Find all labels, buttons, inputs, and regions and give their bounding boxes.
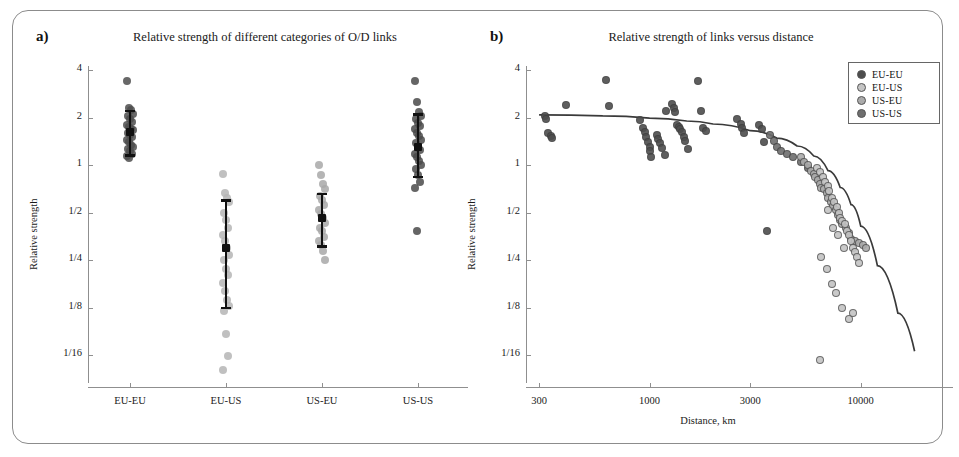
figure-container: a) Relative strength of different catego… bbox=[0, 0, 959, 457]
x-tick-label: EU-US bbox=[181, 395, 271, 406]
error-bar-cap-top bbox=[413, 113, 423, 116]
panel-a-y-axis bbox=[88, 66, 89, 383]
data-point bbox=[862, 244, 870, 252]
x-tick bbox=[322, 383, 323, 387]
data-point bbox=[840, 244, 848, 252]
x-tick bbox=[226, 383, 227, 387]
y-tick bbox=[89, 70, 93, 71]
error-bar-line bbox=[225, 200, 227, 307]
y-tick-label: 1/16 bbox=[40, 347, 82, 358]
panel-b: b) Relative strength of links versus dis… bbox=[478, 0, 959, 457]
legend-item-us-us: US-US bbox=[857, 108, 902, 119]
legend-marker-eu-eu bbox=[857, 70, 866, 79]
y-tick-label: 1/4 bbox=[40, 252, 82, 263]
error-bar-cap-bottom bbox=[413, 176, 423, 179]
data-point bbox=[740, 129, 748, 137]
legend-item-eu-us: EU-US bbox=[857, 82, 902, 93]
legend-label: US-EU bbox=[872, 95, 902, 106]
legend-marker-us-eu bbox=[857, 96, 866, 105]
legend-item-us-eu: US-EU bbox=[857, 95, 902, 106]
error-bar-cap-top bbox=[317, 193, 327, 196]
x-tick bbox=[130, 383, 131, 387]
y-tick-label: 4 bbox=[40, 62, 82, 73]
mean-marker bbox=[222, 244, 230, 252]
panel-a: a) Relative strength of different catego… bbox=[0, 0, 490, 457]
data-point bbox=[317, 171, 325, 179]
error-bar-cap-top bbox=[125, 110, 135, 113]
data-point bbox=[834, 231, 842, 239]
data-point bbox=[816, 356, 824, 364]
data-point bbox=[123, 77, 131, 85]
data-point bbox=[702, 127, 710, 135]
mean-marker bbox=[318, 214, 326, 222]
y-tick-label: 1/2 bbox=[40, 205, 82, 216]
error-bar-cap-bottom bbox=[125, 154, 135, 157]
y-tick bbox=[89, 165, 93, 166]
error-bar-cap-top bbox=[221, 199, 231, 202]
data-point bbox=[671, 108, 679, 116]
data-point bbox=[219, 366, 227, 374]
legend-label: EU-US bbox=[872, 82, 902, 93]
y-tick bbox=[89, 260, 93, 261]
x-tick-label: US-EU bbox=[277, 395, 367, 406]
mean-marker bbox=[414, 143, 422, 151]
y-tick-label: 1 bbox=[40, 157, 82, 168]
data-point bbox=[319, 247, 327, 255]
y-tick bbox=[89, 118, 93, 119]
data-point bbox=[824, 206, 832, 214]
legend-label: EU-EU bbox=[872, 69, 903, 80]
error-bar-cap-bottom bbox=[221, 307, 231, 310]
y-tick bbox=[89, 213, 93, 214]
data-point bbox=[823, 265, 831, 273]
legend: EU-EUEU-USUS-EUUS-US bbox=[848, 62, 940, 124]
mean-marker bbox=[126, 128, 134, 136]
panel-a-x-axis bbox=[88, 387, 468, 388]
data-point bbox=[411, 77, 419, 85]
data-point bbox=[855, 259, 863, 267]
panel-a-plot-area: 4211/21/41/81/16Relative strengthEU-EUEU… bbox=[0, 0, 490, 457]
y-tick-label: 2 bbox=[40, 110, 82, 121]
data-point bbox=[832, 289, 840, 297]
data-point bbox=[681, 137, 689, 145]
legend-label: US-US bbox=[872, 108, 902, 119]
legend-item-eu-eu: EU-EU bbox=[857, 69, 903, 80]
error-bar-cap-bottom bbox=[317, 245, 327, 248]
data-point bbox=[321, 256, 329, 264]
x-tick-label: EU-EU bbox=[85, 395, 175, 406]
legend-marker-eu-us bbox=[857, 83, 866, 92]
x-tick bbox=[418, 383, 419, 387]
data-point bbox=[222, 330, 230, 338]
y-tick bbox=[89, 308, 93, 309]
x-tick-label: US-US bbox=[373, 395, 463, 406]
data-point bbox=[661, 151, 669, 159]
data-point bbox=[224, 352, 232, 360]
data-point bbox=[219, 170, 227, 178]
data-point bbox=[605, 102, 613, 110]
data-point bbox=[413, 227, 421, 235]
data-point bbox=[411, 184, 419, 192]
data-point bbox=[602, 76, 610, 84]
data-point bbox=[413, 98, 421, 106]
panel-a-y-axis-label: Relative strength bbox=[28, 199, 39, 270]
y-tick bbox=[89, 355, 93, 356]
panel-b-y-axis-label: Relative strength bbox=[466, 199, 477, 270]
y-tick-label: 1/8 bbox=[40, 300, 82, 311]
data-point bbox=[562, 101, 570, 109]
data-point bbox=[315, 161, 323, 169]
legend-marker-us-us bbox=[857, 109, 866, 118]
